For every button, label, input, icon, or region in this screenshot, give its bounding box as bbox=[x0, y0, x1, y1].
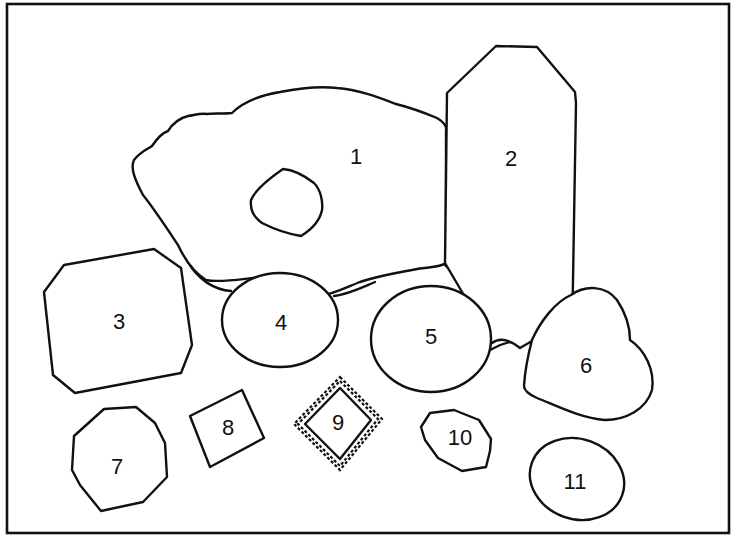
shape-8: 8 bbox=[190, 390, 264, 467]
shape-1-label: 1 bbox=[350, 144, 362, 169]
shape-10: 10 bbox=[421, 410, 491, 471]
shape-7: 7 bbox=[72, 407, 167, 511]
shape-11: 11 bbox=[518, 425, 636, 533]
shape-figure: 1 2 3 4 5 6 7 8 9 1 bbox=[0, 0, 738, 541]
shape-9-label: 9 bbox=[332, 410, 344, 435]
shape-6-label: 6 bbox=[580, 353, 592, 378]
shape-4: 4 bbox=[222, 273, 338, 367]
shape-9: 9 bbox=[294, 377, 382, 470]
shape-8-label: 8 bbox=[222, 415, 234, 440]
shape-7-label: 7 bbox=[111, 454, 123, 479]
shape-1: 1 bbox=[133, 87, 447, 295]
shape-5: 5 bbox=[371, 286, 491, 392]
shape-2-label: 2 bbox=[505, 146, 517, 171]
shape-3-label: 3 bbox=[113, 309, 125, 334]
shape-11-label: 11 bbox=[564, 469, 587, 494]
shape-5-label: 5 bbox=[425, 324, 437, 349]
shape-4-label: 4 bbox=[275, 310, 287, 335]
shape-10-label: 10 bbox=[448, 425, 472, 450]
shape-3: 3 bbox=[44, 249, 192, 393]
